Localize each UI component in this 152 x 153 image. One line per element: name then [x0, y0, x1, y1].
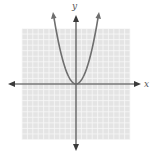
- curve-arrow-right: [96, 12, 102, 19]
- coordinate-plane: [0, 0, 152, 153]
- curve-arrow-left: [51, 12, 57, 19]
- x-axis-label: x: [144, 80, 149, 89]
- y-axis-label: y: [72, 2, 77, 11]
